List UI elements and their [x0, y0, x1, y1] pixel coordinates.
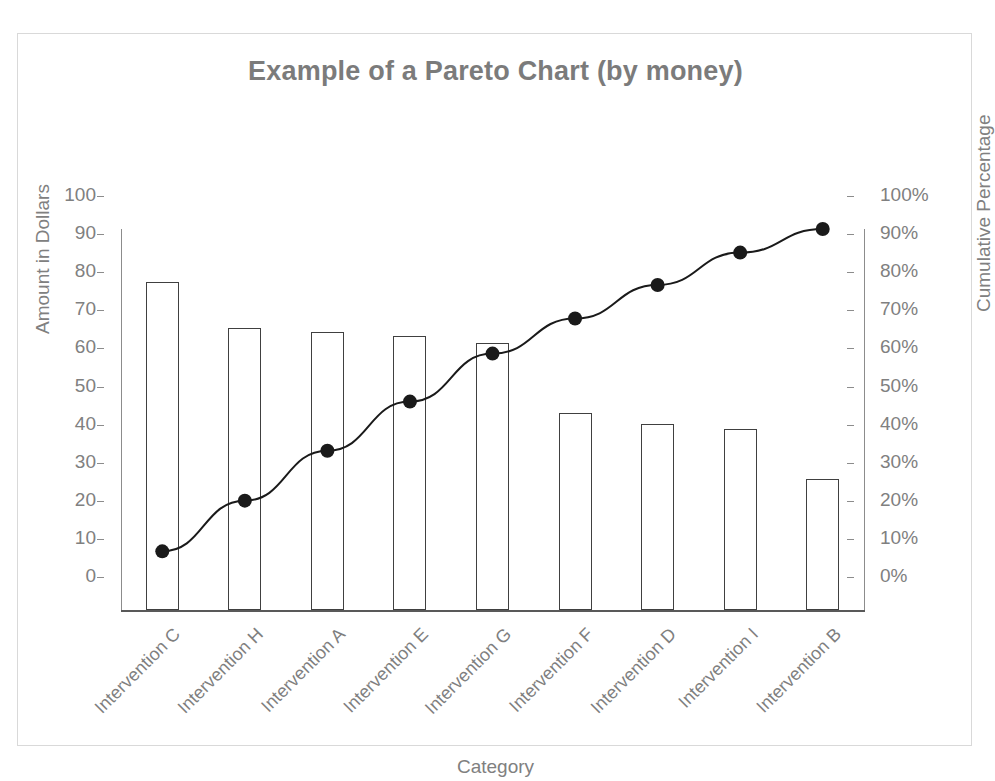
- y-axis-tick-mark: [97, 196, 104, 197]
- cumulative-data-point: [155, 544, 169, 558]
- x-axis-category-labels: Intervention CIntervention HIntervention…: [121, 616, 865, 756]
- x-axis-title: Category: [18, 756, 973, 778]
- y-axis-tick-label: 40: [75, 413, 96, 435]
- y-axis-tick-label: 0: [85, 565, 96, 587]
- cumulative-data-point: [816, 222, 830, 236]
- cumulative-data-point: [238, 494, 252, 508]
- y-axis-secondary-tick-label: 60%: [880, 336, 918, 358]
- y-axis-secondary-title: Cumulative Percentage: [973, 115, 995, 313]
- y-axis-secondary-tick-label: 90%: [880, 222, 918, 244]
- y-axis-tick-label: 90: [75, 222, 96, 244]
- y-axis-secondary-tick-label: 100%: [880, 184, 929, 206]
- y-axis-left-tick-labels: 1009080706050403020100: [18, 34, 106, 781]
- chart-title: Example of a Pareto Chart (by money): [18, 56, 973, 87]
- y-axis-tick-mark: [97, 310, 104, 311]
- y-axis-tick-mark: [97, 425, 104, 426]
- cumulative-data-point: [320, 444, 334, 458]
- y-axis-secondary-tick-mark: [847, 425, 854, 426]
- y-axis-tick-mark: [97, 348, 104, 349]
- y-axis-tick-label: 50: [75, 375, 96, 397]
- y-axis-tick-mark: [97, 463, 104, 464]
- cumulative-data-point: [486, 347, 500, 361]
- y-axis-secondary-tick-label: 30%: [880, 451, 918, 473]
- y-axis-tick-label: 20: [75, 489, 96, 511]
- y-axis-tick-label: 80: [75, 260, 96, 282]
- y-axis-secondary-tick-label: 70%: [880, 298, 918, 320]
- cumulative-data-point: [403, 395, 417, 409]
- cumulative-data-point: [733, 246, 747, 260]
- y-axis-secondary-tick-label: 10%: [880, 527, 918, 549]
- y-axis-tick-mark: [97, 234, 104, 235]
- y-axis-secondary-tick-mark: [847, 463, 854, 464]
- y-axis-tick-mark: [97, 501, 104, 502]
- y-axis-secondary-tick-label: 50%: [880, 375, 918, 397]
- y-axis-secondary-tick-label: 80%: [880, 260, 918, 282]
- y-axis-secondary-tick-label: 0%: [880, 565, 907, 587]
- y-axis-secondary-tick-mark: [847, 234, 854, 235]
- y-axis-secondary-tick-mark: [847, 196, 854, 197]
- y-axis-tick-mark: [97, 272, 104, 273]
- y-axis-right-line: [864, 229, 865, 611]
- y-axis-tick-label: 100: [64, 184, 96, 206]
- y-axis-tick-label: 70: [75, 298, 96, 320]
- y-axis-tick-label: 60: [75, 336, 96, 358]
- y-axis-secondary-tick-label: 20%: [880, 489, 918, 511]
- y-axis-tick-mark: [97, 539, 104, 540]
- y-axis-tick-label: 10: [75, 527, 96, 549]
- y-axis-title: Amount in Dollars: [32, 184, 54, 334]
- y-axis-secondary-tick-mark: [847, 310, 854, 311]
- x-axis-line: [121, 610, 865, 612]
- cumulative-data-point: [651, 278, 665, 292]
- y-axis-secondary-tick-label: 40%: [880, 413, 918, 435]
- y-axis-tick-mark: [97, 387, 104, 388]
- cumulative-data-point: [568, 312, 582, 326]
- y-axis-secondary-tick-mark: [847, 272, 854, 273]
- cumulative-line-layer: [121, 229, 864, 610]
- chart-frame: Example of a Pareto Chart (by money) 100…: [17, 33, 972, 746]
- y-axis-secondary-tick-mark: [847, 539, 854, 540]
- y-axis-secondary-tick-mark: [847, 577, 854, 578]
- y-axis-secondary-tick-mark: [847, 387, 854, 388]
- cumulative-percentage-line: [162, 229, 822, 551]
- y-axis-secondary-tick-mark: [847, 348, 854, 349]
- y-axis-tick-mark: [97, 577, 104, 578]
- y-axis-tick-label: 30: [75, 451, 96, 473]
- y-axis-secondary-tick-mark: [847, 501, 854, 502]
- plot-area: [121, 229, 864, 610]
